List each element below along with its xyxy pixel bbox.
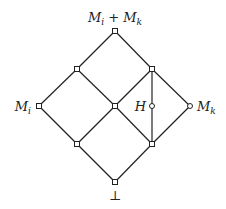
- node-bottom: [113, 180, 118, 185]
- label-mi: Mi: [14, 99, 31, 116]
- lattice-diagram: Mi + Mk Mi H Mk ⊥: [0, 0, 226, 209]
- edge-upper-left-center: [77, 69, 115, 106]
- label-bottom: ⊥: [109, 188, 121, 203]
- edge-top-upper-left: [77, 31, 115, 69]
- node-lower-right: [150, 142, 155, 147]
- edge-lower-left-bottom: [77, 144, 115, 182]
- edge-lower-right-bottom: [115, 144, 152, 182]
- node-h: [150, 104, 155, 109]
- node-upper-left: [75, 67, 80, 72]
- node-mi: [37, 104, 42, 109]
- label-mk: Mk: [196, 99, 216, 116]
- edge-upper-right-center: [115, 69, 152, 106]
- edge-mk-lower-right: [152, 106, 190, 144]
- edge-upper-right-mk: [152, 69, 190, 106]
- edge-upper-left-mi: [39, 69, 77, 106]
- edge-mi-lower-left: [39, 106, 77, 144]
- edge-center-lower-right: [115, 106, 152, 144]
- node-mk: [188, 104, 193, 109]
- edge-center-lower-left: [77, 106, 115, 144]
- node-lower-left: [75, 142, 80, 147]
- nodes: [37, 29, 193, 185]
- node-upper-right: [150, 67, 155, 72]
- label-top: Mi + Mk: [87, 10, 142, 27]
- node-top: [113, 29, 118, 34]
- label-h: H: [134, 99, 147, 114]
- edge-top-upper-right: [115, 31, 152, 69]
- node-center: [113, 104, 118, 109]
